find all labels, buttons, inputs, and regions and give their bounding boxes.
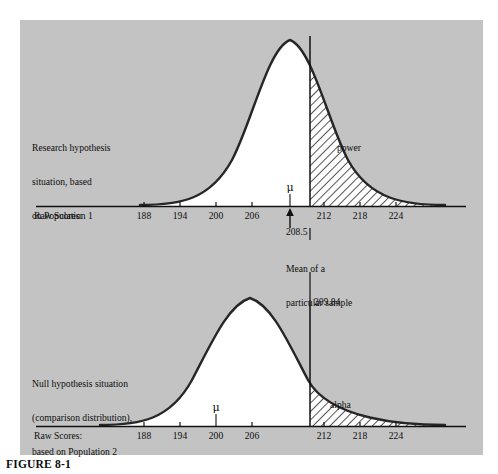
top-tick-label-218: 218 — [340, 210, 380, 221]
bottom-chart-description: Null hypothesis situation (comparison di… — [32, 355, 132, 474]
top-desc-line-1: Research hypothesis — [32, 142, 111, 153]
top-mean-value-label: 208.5 — [286, 226, 308, 237]
bottom-tick-label-200: 200 — [196, 430, 236, 441]
top-power-label: power — [337, 142, 361, 153]
bottom-desc-line-2: (comparison distribution), — [32, 412, 132, 423]
bottom-tick-label-218: 218 — [340, 430, 380, 441]
bottom-tick-label-206: 206 — [232, 430, 272, 441]
top-mu-symbol: μ — [280, 182, 300, 195]
top-tick-label-188: 188 — [124, 210, 164, 221]
bottom-desc-line-3: based on Population 2 — [32, 446, 132, 457]
top-chart-description: Research hypothesis situation, based on … — [32, 119, 111, 243]
top-tick-label-212: 212 — [304, 210, 344, 221]
top-mean-callout: Mean of a particular sample — [286, 240, 352, 331]
bottom-tick-label-194: 194 — [160, 430, 200, 441]
bottom-desc-line-1: Null hypothesis situation — [32, 378, 132, 389]
figure-container: Research hypothesis situation, based on … — [0, 0, 498, 474]
top-tick-label-206: 206 — [232, 210, 272, 221]
bottom-axis-title: Raw Scores: — [34, 430, 82, 441]
top-axis-title: Raw Scores: — [34, 210, 82, 221]
top-tick-label-224: 224 — [376, 210, 416, 221]
bottom-tick-label-224: 224 — [376, 430, 416, 441]
bottom-alpha-label: alpha — [330, 399, 351, 410]
bottom-cutoff-label: 209.84 — [314, 296, 340, 307]
top-mean-callout-line-1: Mean of a — [286, 263, 352, 274]
bottom-tick-label-212: 212 — [304, 430, 344, 441]
figure-caption: FIGURE 8-1 — [6, 458, 71, 472]
top-desc-line-2: situation, based — [32, 176, 111, 187]
bottom-mu-symbol: μ — [206, 402, 226, 415]
top-mean-arrow — [286, 208, 294, 228]
bottom-tick-label-188: 188 — [124, 430, 164, 441]
top-tick-label-194: 194 — [160, 210, 200, 221]
top-tick-label-200: 200 — [196, 210, 236, 221]
